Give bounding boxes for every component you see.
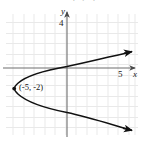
y-axis-tick-label-4: 4 — [59, 19, 64, 28]
x-axis-tick-label-5: 5 — [118, 70, 123, 79]
figure-parabola-graph: Vertex: (-5, -2) y x 4 5 (-5, -2) — [0, 0, 144, 141]
vertex-point — [12, 87, 16, 91]
x-axis-label: x — [133, 70, 137, 79]
parabola-upper-arrow — [124, 52, 132, 54]
vertex-coordinate-label: (-5, -2) — [19, 83, 43, 92]
parabola-lower-arrow — [123, 128, 132, 130]
y-axis-label: y — [61, 7, 65, 16]
